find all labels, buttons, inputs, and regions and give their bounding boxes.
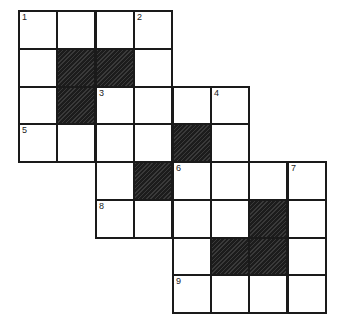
crossword-cell[interactable]: 7 <box>287 161 327 201</box>
crossword-cell[interactable] <box>287 237 327 277</box>
clue-number: 4 <box>214 88 219 98</box>
crossword-grid: 123456789 <box>0 0 343 332</box>
crossword-cell[interactable]: 4 <box>210 86 250 126</box>
crossword-cell[interactable] <box>95 10 135 50</box>
crossword-cell[interactable]: 1 <box>18 10 58 50</box>
crossword-cell[interactable] <box>56 123 96 163</box>
crossword-cell[interactable] <box>210 199 250 239</box>
crossword-cell[interactable]: 8 <box>95 199 135 239</box>
crossword-cell[interactable] <box>172 86 212 126</box>
crossword-cell[interactable]: 5 <box>18 123 58 163</box>
black-square <box>172 123 212 163</box>
clue-number: 8 <box>99 201 104 211</box>
crossword-cell[interactable] <box>95 123 135 163</box>
black-square <box>56 86 96 126</box>
crossword-cell[interactable]: 3 <box>95 86 135 126</box>
black-square <box>210 237 250 277</box>
clue-number: 1 <box>22 12 27 22</box>
black-square <box>133 161 173 201</box>
crossword-cell[interactable] <box>210 123 250 163</box>
crossword-cell[interactable] <box>133 123 173 163</box>
crossword-cell[interactable] <box>287 274 327 314</box>
crossword-cell[interactable] <box>210 274 250 314</box>
clue-number: 5 <box>22 125 27 135</box>
crossword-cell[interactable] <box>133 86 173 126</box>
crossword-cell[interactable] <box>133 48 173 88</box>
crossword-cell[interactable] <box>210 161 250 201</box>
black-square <box>56 48 96 88</box>
black-square <box>248 199 288 239</box>
crossword-cell[interactable] <box>18 86 58 126</box>
crossword-cell[interactable] <box>248 161 288 201</box>
crossword-cell[interactable]: 6 <box>172 161 212 201</box>
crossword-cell[interactable] <box>133 199 173 239</box>
black-square <box>248 237 288 277</box>
clue-number: 3 <box>99 88 104 98</box>
crossword-cell[interactable] <box>56 10 96 50</box>
clue-number: 9 <box>176 276 181 286</box>
crossword-cell[interactable] <box>287 199 327 239</box>
crossword-cell[interactable]: 2 <box>133 10 173 50</box>
black-square <box>95 48 135 88</box>
crossword-cell[interactable] <box>248 274 288 314</box>
crossword-cell[interactable] <box>172 199 212 239</box>
crossword-cell[interactable] <box>172 237 212 277</box>
clue-number: 2 <box>137 12 142 22</box>
crossword-cell[interactable] <box>18 48 58 88</box>
crossword-cell[interactable] <box>95 161 135 201</box>
clue-number: 6 <box>176 163 181 173</box>
clue-number: 7 <box>291 163 296 173</box>
crossword-cell[interactable]: 9 <box>172 274 212 314</box>
